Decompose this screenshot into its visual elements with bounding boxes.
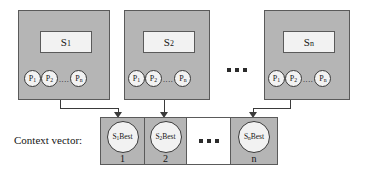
particle-row-1: P1 P2 .... Pn [24, 70, 87, 87]
context-vector-index-1: 1 [120, 154, 125, 164]
particle-2-n: Pn [174, 70, 191, 87]
particle-row-2: P1 P2 .... Pn [128, 70, 191, 87]
diagram-canvas: S1 P1 P2 .... Pn S2 P1 P2 .... [0, 0, 368, 177]
context-vector-cell-ellipsis [187, 118, 231, 164]
particle-n-1: P1 [268, 70, 285, 87]
particle-1-2: P2 [41, 70, 58, 87]
connector-n-segment-left [253, 108, 291, 109]
connector-n-segment-down [290, 100, 291, 108]
context-vector-circle-2: S2Best [150, 121, 182, 153]
particle-1-n: Pn [70, 70, 87, 87]
context-vector-index-2: 2 [163, 154, 168, 164]
particle-ellipsis-n: .... [302, 75, 314, 84]
swarm-ellipsis [227, 68, 247, 72]
particle-2-2: P2 [145, 70, 162, 87]
swarm-label-1: S1 [40, 31, 92, 53]
particle-row-n: P1 P2 .... Pn [268, 70, 331, 87]
swarm-box-n: Sn P1 P2 .... Pn [264, 10, 350, 100]
cv-circle-2-prefix: S [155, 133, 159, 141]
context-vector-ellipsis [199, 139, 219, 143]
connector-1-segment-right [60, 108, 118, 109]
connector-1-segment-down [60, 100, 61, 108]
cv-circle-n-suffix: Best [251, 133, 264, 141]
particle-ellipsis-2: .... [162, 75, 174, 84]
context-vector-label: Context vector: [14, 134, 82, 146]
context-vector-cell-1: S1Best 1 [101, 118, 145, 164]
cv-circle-1-suffix: Best [119, 133, 132, 141]
particle-n-n: Pn [314, 70, 331, 87]
cv-circle-1-prefix: S [112, 133, 116, 141]
context-vector-circle-n: SnBest [238, 121, 270, 153]
swarm-ellipsis-dot-3 [243, 68, 247, 72]
particle-1-1: P1 [24, 70, 41, 87]
swarm-ellipsis-dot-2 [235, 68, 239, 72]
context-vector-row: S1Best 1 S2Best 2 SnBest n [100, 117, 278, 165]
particle-n-2: P2 [285, 70, 302, 87]
context-vector-cell-2: S2Best 2 [145, 118, 187, 164]
swarm-box-1: S1 P1 P2 .... Pn [18, 10, 110, 100]
context-vector-circle-1: S1Best [107, 121, 139, 153]
cv-ellipsis-dot-3 [215, 139, 219, 143]
cv-ellipsis-dot-1 [199, 139, 203, 143]
particle-ellipsis-1: .... [58, 75, 70, 84]
swarm-label-n: Sn [283, 31, 335, 53]
context-vector-cell-n: SnBest n [231, 118, 277, 164]
swarm-box-2: S2 P1 P2 .... Pn [124, 10, 210, 100]
swarm-label-2: S2 [143, 31, 195, 53]
context-vector-index-n: n [252, 154, 257, 164]
cv-circle-2-suffix: Best [162, 133, 175, 141]
cv-ellipsis-dot-2 [207, 139, 211, 143]
swarm-ellipsis-dot-1 [227, 68, 231, 72]
particle-2-1: P1 [128, 70, 145, 87]
